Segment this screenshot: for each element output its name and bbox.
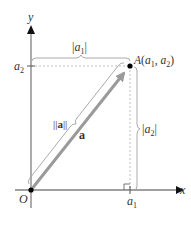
point-A	[127, 63, 132, 68]
y-axis-arrow-icon	[27, 25, 35, 34]
right-angle-marker	[124, 184, 130, 190]
vector-a	[31, 73, 124, 190]
y-axis-label: y	[27, 10, 34, 24]
brace-a2-label: |a2|	[142, 122, 157, 138]
x-tick-label: a1	[127, 194, 137, 210]
vector-diagram: y x O a2 a1 A(a1, a2) |a1| |a2| ||a|| a	[0, 0, 191, 226]
vector-a-label: a	[79, 128, 85, 142]
origin-label: O	[19, 192, 28, 206]
point-A-label: A(a1, a2)	[133, 54, 174, 69]
brace-vertical-a2	[134, 67, 140, 190]
brace-norm	[28, 63, 124, 184]
brace-a1-label: |a1|	[72, 40, 87, 56]
origin-point	[28, 187, 33, 192]
x-axis-label: x	[179, 183, 186, 197]
y-tick-label: a2	[14, 59, 24, 75]
norm-label: ||a||	[53, 118, 67, 130]
